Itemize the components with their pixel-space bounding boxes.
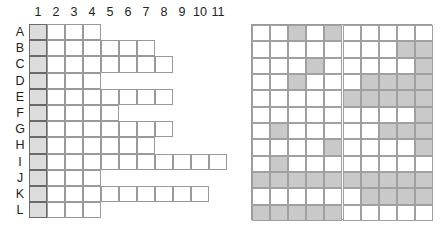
seat-cell-G5[interactable]	[101, 121, 119, 137]
assignment-cell[interactable]	[288, 58, 306, 74]
blocked-cell[interactable]	[270, 172, 288, 188]
seat-cell-H4[interactable]	[83, 137, 101, 153]
seat-cell-A2[interactable]	[47, 24, 65, 40]
seat-cell-L3[interactable]	[65, 202, 83, 218]
seat-cell-K3[interactable]	[65, 186, 83, 202]
seat-cell-E6[interactable]	[119, 89, 137, 105]
assignment-cell[interactable]	[306, 188, 324, 204]
assignment-cell[interactable]	[361, 156, 379, 172]
blocked-cell[interactable]	[361, 90, 379, 106]
assignment-cell[interactable]	[288, 41, 306, 57]
assignment-cell[interactable]	[270, 25, 288, 41]
assignment-cell[interactable]	[397, 205, 415, 221]
assignment-cell[interactable]	[343, 74, 361, 90]
assignment-cell[interactable]	[379, 41, 397, 57]
seat-cell-K7[interactable]	[137, 186, 155, 202]
seat-cell-C6[interactable]	[119, 56, 137, 72]
seat-cell-D1[interactable]	[29, 73, 47, 89]
seat-cell-I1[interactable]	[29, 154, 47, 170]
seat-cell-H7[interactable]	[137, 137, 155, 153]
seat-cell-B1[interactable]	[29, 40, 47, 56]
assignment-cell[interactable]	[361, 107, 379, 123]
assignment-cell[interactable]	[252, 90, 270, 106]
assignment-cell[interactable]	[343, 58, 361, 74]
assignment-cell[interactable]	[270, 58, 288, 74]
blocked-cell[interactable]	[397, 90, 415, 106]
seat-cell-K4[interactable]	[83, 186, 101, 202]
assignment-cell[interactable]	[343, 41, 361, 57]
seat-cell-K8[interactable]	[155, 186, 173, 202]
seat-cell-K10[interactable]	[191, 186, 209, 202]
assignment-cell[interactable]	[343, 123, 361, 139]
blocked-cell[interactable]	[252, 172, 270, 188]
assignment-cell[interactable]	[288, 107, 306, 123]
blocked-cell[interactable]	[288, 74, 306, 90]
seat-cell-D4[interactable]	[83, 73, 101, 89]
blocked-cell[interactable]	[270, 205, 288, 221]
blocked-cell[interactable]	[397, 188, 415, 204]
assignment-cell[interactable]	[252, 107, 270, 123]
blocked-cell[interactable]	[415, 90, 433, 106]
seat-cell-K2[interactable]	[47, 186, 65, 202]
assignment-cell[interactable]	[306, 107, 324, 123]
assignment-cell[interactable]	[252, 156, 270, 172]
assignment-cell[interactable]	[324, 156, 342, 172]
blocked-cell[interactable]	[361, 74, 379, 90]
seat-cell-B6[interactable]	[119, 40, 137, 56]
assignment-cell[interactable]	[288, 156, 306, 172]
assignment-cell[interactable]	[397, 25, 415, 41]
seat-cell-C1[interactable]	[29, 56, 47, 72]
blocked-cell[interactable]	[415, 107, 433, 123]
blocked-cell[interactable]	[415, 74, 433, 90]
seat-cell-C4[interactable]	[83, 56, 101, 72]
seat-cell-A3[interactable]	[65, 24, 83, 40]
seat-cell-G6[interactable]	[119, 121, 137, 137]
seat-cell-L2[interactable]	[47, 202, 65, 218]
seat-cell-F1[interactable]	[29, 105, 47, 121]
assignment-cell[interactable]	[324, 41, 342, 57]
seat-cell-I4[interactable]	[83, 154, 101, 170]
seat-cell-G1[interactable]	[29, 121, 47, 137]
blocked-cell[interactable]	[288, 25, 306, 41]
blocked-cell[interactable]	[379, 74, 397, 90]
assignment-cell[interactable]	[415, 205, 433, 221]
blocked-cell[interactable]	[288, 172, 306, 188]
assignment-cell[interactable]	[270, 74, 288, 90]
seat-cell-H5[interactable]	[101, 137, 119, 153]
seat-cell-F4[interactable]	[83, 105, 101, 121]
assignment-cell[interactable]	[306, 123, 324, 139]
assignment-cell[interactable]	[252, 188, 270, 204]
assignment-cell[interactable]	[343, 188, 361, 204]
seat-cell-J3[interactable]	[65, 170, 83, 186]
blocked-cell[interactable]	[324, 139, 342, 155]
assignment-cell[interactable]	[343, 156, 361, 172]
assignment-cell[interactable]	[324, 58, 342, 74]
blocked-cell[interactable]	[397, 41, 415, 57]
blocked-cell[interactable]	[306, 172, 324, 188]
blocked-cell[interactable]	[415, 139, 433, 155]
seat-cell-C2[interactable]	[47, 56, 65, 72]
blocked-cell[interactable]	[379, 172, 397, 188]
assignment-cell[interactable]	[379, 58, 397, 74]
seat-cell-D3[interactable]	[65, 73, 83, 89]
seat-cell-K5[interactable]	[101, 186, 119, 202]
seat-cell-K6[interactable]	[119, 186, 137, 202]
seat-cell-B3[interactable]	[65, 40, 83, 56]
assignment-cell[interactable]	[252, 58, 270, 74]
assignment-cell[interactable]	[306, 90, 324, 106]
seat-cell-C7[interactable]	[137, 56, 155, 72]
seat-cell-I11[interactable]	[209, 154, 227, 170]
seat-cell-I5[interactable]	[101, 154, 119, 170]
seat-cell-B4[interactable]	[83, 40, 101, 56]
assignment-cell[interactable]	[379, 25, 397, 41]
assignment-cell[interactable]	[361, 41, 379, 57]
blocked-cell[interactable]	[361, 172, 379, 188]
seat-cell-E7[interactable]	[137, 89, 155, 105]
seat-cell-E5[interactable]	[101, 89, 119, 105]
blocked-cell[interactable]	[361, 188, 379, 204]
seat-cell-C5[interactable]	[101, 56, 119, 72]
seat-cell-B2[interactable]	[47, 40, 65, 56]
seat-cell-I9[interactable]	[173, 154, 191, 170]
seat-cell-H3[interactable]	[65, 137, 83, 153]
seat-cell-D2[interactable]	[47, 73, 65, 89]
